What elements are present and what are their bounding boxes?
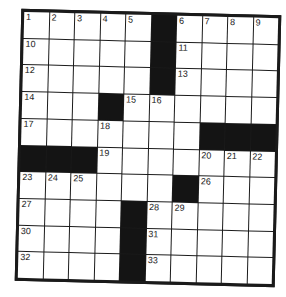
grid-cell[interactable]: [173, 149, 198, 175]
grid-cell[interactable]: [226, 97, 251, 123]
grid-cell[interactable]: [48, 66, 73, 92]
grid-cell[interactable]: [224, 177, 249, 203]
grid-cell[interactable]: [124, 68, 149, 94]
grid-cell[interactable]: 11: [176, 42, 201, 68]
grid-cell[interactable]: 18: [98, 121, 123, 147]
grid-cell[interactable]: [96, 174, 121, 200]
grid-cell[interactable]: [226, 70, 251, 96]
grid-cell[interactable]: 9: [253, 18, 278, 44]
grid-cell[interactable]: [48, 39, 73, 65]
grid-cell[interactable]: [247, 258, 272, 284]
grid-cell[interactable]: [201, 43, 226, 69]
grid-cell[interactable]: [96, 201, 121, 227]
clue-number: 23: [22, 173, 32, 182]
grid-cell[interactable]: [69, 227, 94, 253]
grid-cell[interactable]: 23: [20, 172, 45, 198]
grid-cell[interactable]: [174, 122, 199, 148]
grid-cell[interactable]: 25: [71, 173, 96, 199]
grid-cell[interactable]: [223, 204, 248, 230]
grid-cell[interactable]: [249, 204, 274, 230]
clue-number: 2: [52, 14, 57, 23]
grid-cell[interactable]: 22: [250, 151, 275, 177]
grid-cell[interactable]: [47, 93, 72, 119]
grid-cell[interactable]: [125, 41, 150, 67]
grid-cell[interactable]: [44, 226, 69, 252]
grid-cell[interactable]: [171, 256, 196, 282]
grid-cell[interactable]: 14: [22, 92, 47, 118]
grid-cell[interactable]: [252, 71, 277, 97]
grid-cell[interactable]: 16: [149, 95, 174, 121]
grid-cell[interactable]: 3: [75, 13, 100, 39]
grid-cell[interactable]: [45, 199, 70, 225]
grid-cell[interactable]: 27: [19, 199, 44, 225]
grid-cell[interactable]: [175, 96, 200, 122]
grid-cell[interactable]: [73, 93, 98, 119]
grid-cell[interactable]: 12: [22, 65, 47, 91]
grid-cell[interactable]: [171, 229, 196, 255]
grid-cell[interactable]: 6: [177, 16, 202, 42]
grid-cell[interactable]: [70, 200, 95, 226]
grid-cell[interactable]: 24: [45, 173, 70, 199]
grid-cell[interactable]: 26: [198, 176, 223, 202]
black-square: [150, 42, 175, 68]
grid-cell[interactable]: [123, 121, 148, 147]
clue-number: 24: [48, 174, 58, 183]
grid-cell[interactable]: [149, 122, 174, 148]
grid-cell[interactable]: [99, 67, 124, 93]
grid-cell[interactable]: [122, 148, 147, 174]
grid-cell[interactable]: 30: [18, 225, 43, 251]
grid-cell[interactable]: [148, 149, 173, 175]
grid-cell[interactable]: [227, 44, 252, 70]
clue-number: 27: [21, 200, 31, 209]
clue-number: 28: [149, 203, 159, 212]
grid-cell[interactable]: [222, 257, 247, 283]
grid-cell[interactable]: [95, 227, 120, 253]
grid-cell[interactable]: 2: [49, 13, 74, 39]
grid-cell[interactable]: 32: [18, 252, 43, 278]
grid-cell[interactable]: 15: [124, 94, 149, 120]
grid-cell[interactable]: 29: [172, 203, 197, 229]
grid-cell[interactable]: 31: [146, 229, 171, 255]
grid-cell[interactable]: [249, 178, 274, 204]
grid-cell[interactable]: [147, 175, 172, 201]
grid-cell[interactable]: [248, 231, 273, 257]
grid-cell[interactable]: [47, 119, 72, 145]
black-square: [250, 124, 275, 150]
grid-cell[interactable]: 8: [228, 17, 253, 43]
grid-cell[interactable]: [251, 98, 276, 124]
black-square: [98, 94, 123, 120]
black-square: [199, 123, 224, 149]
grid-cell[interactable]: [222, 230, 247, 256]
grid-cell[interactable]: [200, 96, 225, 122]
grid-cell[interactable]: 33: [145, 255, 170, 281]
clue-number: 32: [20, 253, 30, 262]
grid-cell[interactable]: 28: [147, 202, 172, 228]
clue-number: 25: [73, 174, 83, 183]
grid-cell[interactable]: 13: [175, 69, 200, 95]
grid-cell[interactable]: 19: [97, 147, 122, 173]
grid-cell[interactable]: 7: [202, 16, 227, 42]
grid-cell[interactable]: 17: [21, 119, 46, 145]
grid-cell[interactable]: [99, 40, 124, 66]
grid-cell[interactable]: [201, 70, 226, 96]
clue-number: 10: [25, 40, 35, 49]
grid-cell[interactable]: [198, 203, 223, 229]
black-square: [121, 201, 146, 227]
grid-cell[interactable]: 20: [199, 150, 224, 176]
grid-cell[interactable]: [197, 230, 222, 256]
grid-cell[interactable]: 4: [100, 14, 125, 40]
grid-cell[interactable]: [196, 257, 221, 283]
grid-cell[interactable]: [43, 253, 68, 279]
grid-cell[interactable]: [94, 254, 119, 280]
grid-cell[interactable]: 10: [23, 39, 48, 65]
grid-cell[interactable]: [122, 175, 147, 201]
grid-cell[interactable]: 1: [24, 12, 49, 38]
grid-cell[interactable]: [252, 44, 277, 70]
grid-cell[interactable]: [69, 253, 94, 279]
black-square: [46, 146, 71, 172]
grid-cell[interactable]: [74, 40, 99, 66]
grid-cell[interactable]: [73, 67, 98, 93]
grid-cell[interactable]: 5: [126, 14, 151, 40]
grid-cell[interactable]: 21: [224, 150, 249, 176]
grid-cell[interactable]: [72, 120, 97, 146]
